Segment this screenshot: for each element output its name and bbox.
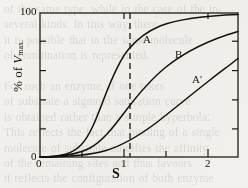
x-axis-ticks bbox=[82, 149, 208, 157]
y-axis-label-symbol: V bbox=[10, 56, 25, 64]
x-tick-label-2: 2 bbox=[205, 157, 211, 169]
right-axis-ticks bbox=[232, 41, 238, 129]
curve-a bbox=[40, 15, 238, 157]
y-axis-label-prefix: % of bbox=[10, 64, 25, 92]
x-tick-label-0: 0 bbox=[36, 157, 42, 169]
curve-label-b: B bbox=[175, 48, 182, 60]
x-axis-label: S bbox=[96, 166, 136, 182]
curve-b bbox=[40, 32, 238, 158]
y-axis-label: % of Vmax. bbox=[10, 18, 26, 114]
y-axis-ticks bbox=[40, 41, 46, 129]
chart-figure: 100 0 0 1 2 % of Vmax. S A B A' bbox=[0, 0, 248, 188]
curve-label-a-prime: A' bbox=[192, 73, 202, 85]
figure-page: of the same type, while in the case of t… bbox=[0, 0, 248, 188]
y-tick-label-100: 100 bbox=[20, 5, 37, 17]
curve-label-a: A bbox=[143, 33, 151, 45]
y-axis-label-subscript: max. bbox=[16, 40, 25, 56]
curve-a-prime bbox=[40, 59, 238, 158]
